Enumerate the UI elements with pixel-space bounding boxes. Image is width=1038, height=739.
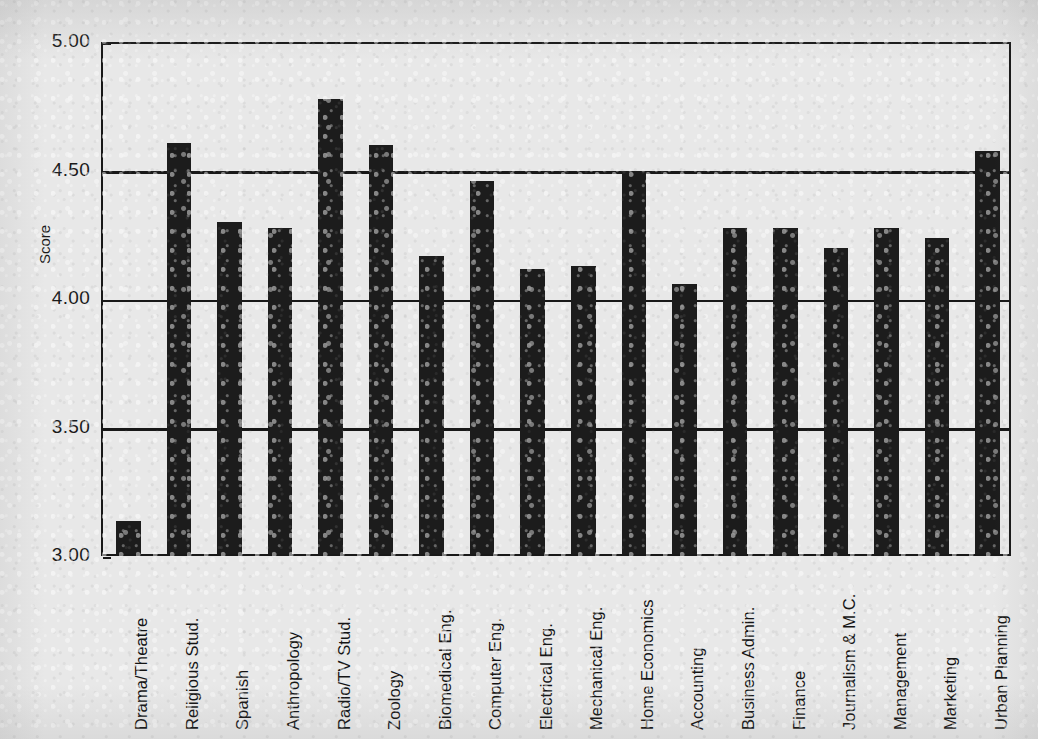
x-tick-label: Accounting: [688, 647, 707, 730]
x-tick-label: Mechanical Eng.: [587, 607, 606, 731]
x-tick-label: Anthropology: [284, 632, 303, 730]
bar: [723, 228, 748, 554]
y-tick-label: 5.00: [20, 30, 90, 52]
chart-page: Score 5.004.504.003.503.00 Drama/Theatre…: [0, 0, 1038, 739]
plot-area: [101, 42, 1011, 556]
x-tick-label: Radio/TV Stud.: [335, 617, 354, 730]
x-tick-label: Electrical Eng.: [537, 623, 556, 730]
gridline: [103, 171, 1009, 174]
x-tick-label: Religious Stud.: [183, 618, 202, 730]
x-tick-label: Home Economics: [638, 599, 657, 730]
x-tick-label: Zoology: [385, 671, 404, 730]
y-tick-label: 3.00: [20, 544, 90, 566]
bar: [369, 145, 394, 554]
x-tick-label: Marketing: [941, 657, 960, 730]
bar: [419, 256, 444, 554]
y-tick-mark: [103, 557, 111, 560]
bar: [571, 266, 596, 554]
bar: [520, 269, 545, 554]
bar: [470, 181, 495, 554]
bar: [874, 228, 899, 554]
y-axis-title: Score: [36, 205, 53, 285]
bar: [975, 151, 1000, 554]
bar: [116, 521, 141, 554]
x-axis-labels: Drama/TheatreReligious Stud.SpanishAnthr…: [101, 562, 1011, 737]
bar: [167, 143, 192, 554]
x-tick-label: Journalism & M.C.: [840, 594, 859, 730]
x-tick-label: Business Admin.: [739, 607, 758, 730]
bar: [318, 99, 343, 554]
x-tick-label: Urban Planning: [992, 615, 1011, 730]
bar: [672, 284, 697, 554]
y-tick-label: 3.50: [20, 416, 90, 438]
x-tick-label: Management: [891, 633, 910, 730]
bar: [925, 238, 950, 554]
bar: [773, 228, 798, 554]
bar: [268, 228, 293, 554]
x-tick-label: Computer Eng.: [486, 618, 505, 730]
bar: [824, 248, 849, 554]
x-tick-label: Spanish: [233, 670, 252, 730]
y-tick-label: 4.50: [20, 159, 90, 181]
y-tick-mark: [103, 43, 111, 46]
y-axis: Score 5.004.504.003.503.00: [12, 0, 90, 739]
y-tick-label: 4.00: [20, 287, 90, 309]
x-tick-label: Finance: [790, 671, 809, 730]
x-tick-label: Drama/Theatre: [132, 618, 151, 730]
x-tick-label: Biomedical Eng.: [436, 609, 455, 730]
bar: [217, 222, 242, 554]
bar: [622, 171, 647, 554]
